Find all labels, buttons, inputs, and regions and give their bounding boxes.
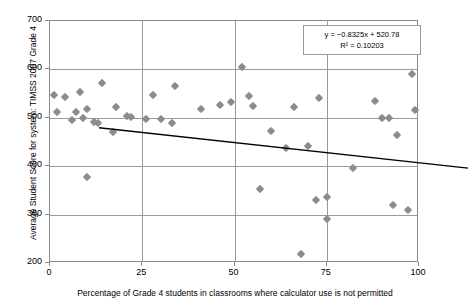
x-tick-label-0: 0 bbox=[29, 267, 69, 277]
data-point bbox=[61, 93, 69, 101]
gridline-y-500 bbox=[50, 118, 417, 119]
data-point bbox=[112, 103, 120, 111]
data-point bbox=[304, 142, 312, 150]
data-point bbox=[323, 193, 331, 201]
equation-annotation: y = −0.8325x + 520.78 R² = 0.10203 bbox=[303, 25, 421, 55]
gridline-x-50 bbox=[235, 21, 236, 261]
x-tick-label-25: 25 bbox=[121, 267, 161, 277]
gridline-x-75 bbox=[327, 21, 328, 261]
x-tick-50 bbox=[234, 262, 235, 266]
data-point bbox=[370, 97, 378, 105]
data-point bbox=[385, 114, 393, 122]
x-axis-title: Percentage of Grade 4 students in classr… bbox=[40, 288, 430, 298]
x-tick-label-100: 100 bbox=[398, 267, 438, 277]
data-point bbox=[83, 104, 91, 112]
data-point bbox=[393, 131, 401, 139]
data-point bbox=[53, 108, 61, 116]
data-point bbox=[411, 106, 419, 114]
gridline-y-400 bbox=[50, 166, 417, 167]
data-point bbox=[197, 104, 205, 112]
data-point bbox=[297, 250, 305, 258]
data-point bbox=[245, 91, 253, 99]
data-point bbox=[289, 103, 297, 111]
y-tick-label-600: 600 bbox=[2, 63, 42, 72]
data-point bbox=[149, 90, 157, 98]
data-point bbox=[79, 114, 87, 122]
data-point bbox=[315, 94, 323, 102]
data-point bbox=[156, 115, 164, 123]
data-point bbox=[256, 185, 264, 193]
y-tick-label-500: 500 bbox=[2, 112, 42, 121]
data-point bbox=[83, 173, 91, 181]
data-point bbox=[97, 79, 105, 87]
data-point bbox=[49, 91, 57, 99]
x-tick-25 bbox=[141, 262, 142, 266]
x-tick-0 bbox=[49, 262, 50, 266]
r-squared-label: R² = 0.10203 bbox=[308, 40, 416, 51]
y-axis-title: Average Student Score for system: TIMSS … bbox=[28, 8, 38, 258]
data-point bbox=[389, 201, 397, 209]
data-point bbox=[267, 127, 275, 135]
gridline-y-600 bbox=[50, 69, 417, 70]
data-point bbox=[75, 88, 83, 96]
data-point bbox=[323, 215, 331, 223]
gridline-y-300 bbox=[50, 215, 417, 216]
x-tick-100 bbox=[418, 262, 419, 266]
data-point bbox=[348, 164, 356, 172]
x-tick-75 bbox=[326, 262, 327, 266]
data-point bbox=[238, 63, 246, 71]
data-point bbox=[108, 128, 116, 136]
y-tick-label-400: 400 bbox=[2, 160, 42, 169]
data-point bbox=[282, 144, 290, 152]
plot-area bbox=[49, 20, 418, 262]
y-tick-label-200: 200 bbox=[2, 257, 42, 266]
x-tick-label-50: 50 bbox=[214, 267, 254, 277]
data-point bbox=[168, 119, 176, 127]
data-point bbox=[215, 101, 223, 109]
data-point bbox=[72, 107, 80, 115]
gridline-x-25 bbox=[142, 21, 143, 261]
equation-label: y = −0.8325x + 520.78 bbox=[308, 29, 416, 40]
data-point bbox=[407, 70, 415, 78]
y-tick-label-700: 700 bbox=[2, 15, 42, 24]
data-point bbox=[127, 113, 135, 121]
data-point bbox=[171, 82, 179, 90]
data-point bbox=[68, 115, 76, 123]
y-tick-label-300: 300 bbox=[2, 209, 42, 218]
data-point bbox=[404, 206, 412, 214]
data-point bbox=[311, 196, 319, 204]
x-tick-label-75: 75 bbox=[306, 267, 346, 277]
data-point bbox=[249, 101, 257, 109]
